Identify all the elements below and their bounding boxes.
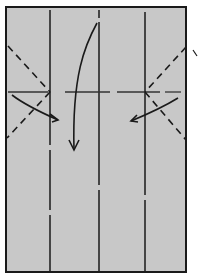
paper-sheet xyxy=(6,7,186,272)
edge-tick-mark xyxy=(193,50,197,56)
origami-diagram xyxy=(0,0,198,273)
